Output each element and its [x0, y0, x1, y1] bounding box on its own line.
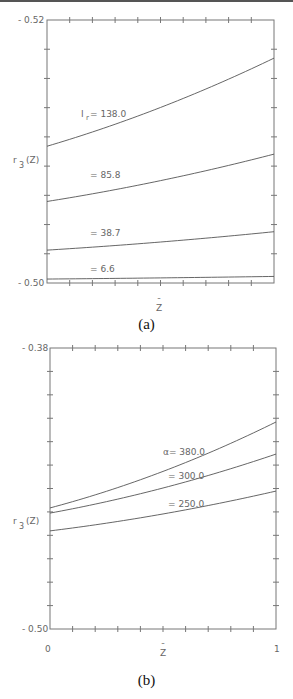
xlabel-z: Z — [158, 649, 168, 658]
x-tick-left-b: 0 — [45, 644, 51, 654]
chart-panel-b: - 0.38 - 0.50 0 1 r 3 (Z) α= 380.0 = 300… — [0, 0, 293, 699]
ylabel-subscript: 3 — [19, 522, 24, 531]
axis-ticks-b — [47, 345, 279, 632]
curves-b — [50, 422, 276, 531]
curve-line-1 — [50, 454, 276, 513]
plot-frame-b — [50, 348, 276, 629]
x-tick-right-b: 1 — [274, 644, 280, 654]
ylabel-argument: (Z) — [26, 516, 39, 526]
curve-label-380: α= 380.0 — [163, 447, 205, 457]
curve-line-2 — [50, 491, 276, 531]
ylabel-r: r — [13, 516, 17, 526]
y-tick-bottom-b: - 0.50 — [22, 624, 48, 634]
caption-b: (b) — [0, 672, 293, 689]
y-tick-top-b: - 0.38 — [22, 343, 48, 353]
x-axis-label-b: ¯ Z — [158, 645, 168, 658]
y-axis-label-b: r 3 (Z) — [13, 516, 39, 531]
curve-label-300: = 300.0 — [168, 471, 204, 481]
curve-label-250: = 250.0 — [168, 499, 204, 509]
